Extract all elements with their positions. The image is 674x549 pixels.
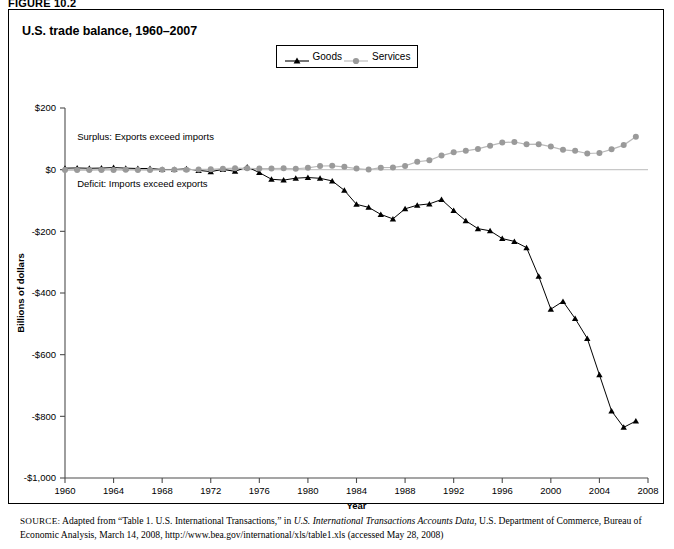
plot-annotation: Deficit: Imports exceed exports (77, 178, 208, 189)
data-point (74, 167, 80, 173)
data-point (572, 316, 578, 322)
data-point (596, 372, 602, 378)
data-point (511, 139, 517, 145)
source-line1-italic: U.S. International Transactions Accounts… (294, 515, 475, 526)
data-point (111, 167, 117, 173)
data-point (378, 211, 384, 217)
y-tick-label: -$1,000 (24, 472, 56, 483)
data-point (596, 150, 602, 156)
x-tick-label: 2008 (637, 485, 658, 496)
data-point (548, 306, 554, 312)
data-point (633, 134, 639, 140)
data-point (341, 164, 347, 170)
trade-balance-chart: $200$0-$200-$400-$600-$800-$1,000 196019… (0, 0, 674, 549)
data-point (621, 142, 627, 148)
data-point (354, 166, 360, 172)
data-point (536, 141, 542, 147)
data-point (171, 167, 177, 173)
x-tick-label: 1968 (152, 485, 173, 496)
data-point (438, 197, 444, 203)
data-point (317, 163, 323, 169)
data-point (378, 165, 384, 171)
data-point (451, 149, 457, 155)
data-point (220, 166, 226, 172)
y-axis-title: Billions of dollars (15, 253, 26, 333)
data-point (62, 167, 68, 173)
x-tick-label: 1960 (54, 485, 75, 496)
plot-annotation: Surplus: Exports exceed imports (77, 131, 214, 142)
y-tick-label: $0 (45, 164, 56, 175)
x-tick-label: 2000 (540, 485, 561, 496)
y-tick-label: $200 (35, 102, 56, 113)
data-point (499, 140, 505, 146)
data-point (147, 167, 153, 173)
data-point (390, 164, 396, 170)
data-point (439, 153, 445, 159)
data-point (426, 157, 432, 163)
data-point (475, 226, 481, 232)
data-point (305, 165, 311, 171)
data-point (281, 165, 287, 171)
data-point (621, 424, 627, 430)
x-tick-label: 1972 (200, 485, 221, 496)
data-point (475, 146, 481, 152)
source-prefix: SOURCE: (20, 516, 60, 526)
data-point (608, 408, 614, 414)
y-axis: $200$0-$200-$400-$600-$800-$1,000 (24, 102, 65, 483)
x-tick-label: 1988 (395, 485, 416, 496)
data-point (86, 167, 92, 173)
x-tick-label: 1992 (443, 485, 464, 496)
data-point (183, 167, 189, 173)
data-point (524, 141, 530, 147)
x-tick-label: 1976 (249, 485, 270, 496)
data-point (414, 159, 420, 165)
data-point (123, 167, 129, 173)
x-axis-title: Year (346, 500, 366, 511)
x-tick-label: 2004 (589, 485, 610, 496)
data-point (560, 298, 566, 304)
data-point (135, 167, 141, 173)
x-tick-label: 1980 (297, 485, 318, 496)
data-point (232, 165, 238, 171)
y-tick-label: -$600 (32, 349, 56, 360)
plot-annotations: Surplus: Exports exceed importsDeficit: … (77, 131, 214, 188)
source-note: SOURCE: Adapted from “Table 1. U.S. Inte… (20, 514, 660, 541)
source-line1-a: Adapted from “Table 1. U.S. Internationa… (60, 515, 294, 526)
x-tick-label: 1964 (103, 485, 124, 496)
data-point (196, 166, 202, 172)
data-point (463, 148, 469, 154)
data-point (98, 167, 104, 173)
data-point (244, 165, 250, 171)
data-point (548, 144, 554, 150)
y-tick-label: -$400 (32, 287, 56, 298)
data-point (487, 143, 493, 149)
data-point (572, 148, 578, 154)
data-point (159, 167, 165, 173)
data-point (293, 166, 299, 172)
series-goods (62, 164, 639, 430)
data-point (499, 236, 505, 242)
data-point (523, 245, 529, 251)
data-point (208, 166, 214, 172)
data-point (609, 146, 615, 152)
data-point (584, 335, 590, 341)
x-tick-label: 1984 (346, 485, 367, 496)
y-tick-label: -$800 (32, 411, 56, 422)
data-point (560, 147, 566, 153)
x-axis: 1960196419681972197619801984198819921996… (54, 478, 658, 496)
x-tick-label: 1996 (492, 485, 513, 496)
data-point (535, 273, 541, 279)
source-line1-b: , U.S. Department of Commerce, (474, 515, 601, 526)
data-point (633, 418, 639, 424)
data-point (402, 163, 408, 169)
data-point (366, 167, 372, 173)
data-point (329, 163, 335, 169)
data-point (268, 165, 274, 171)
data-point (256, 166, 262, 172)
y-tick-label: -$200 (32, 226, 56, 237)
data-point (584, 151, 590, 157)
